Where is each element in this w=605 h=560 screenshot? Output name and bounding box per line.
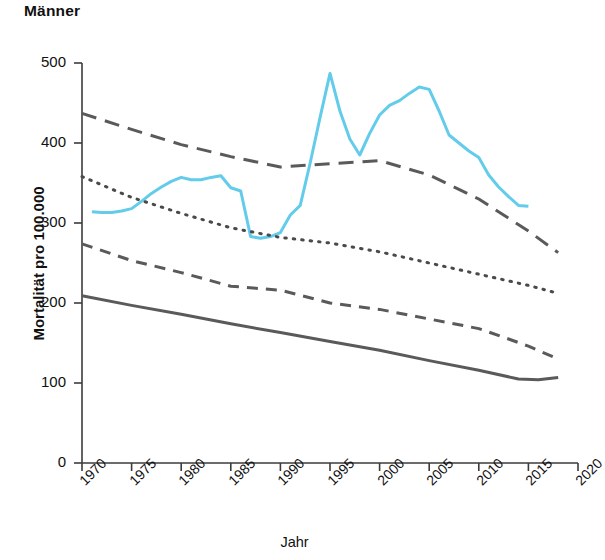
y-tick-label: 100: [14, 373, 66, 390]
series-dotted-middle: [82, 177, 558, 294]
series-solid-bottom: [82, 296, 558, 380]
data-series-layer: [82, 73, 558, 379]
series-medium-dash-lower: [82, 244, 558, 359]
axis-lines: [82, 63, 578, 463]
y-tick-label: 300: [14, 213, 66, 230]
y-tick-label: 500: [14, 53, 66, 70]
y-tick-label: 400: [14, 133, 66, 150]
series-highlight-cyan: [92, 73, 528, 238]
y-tick-label: 200: [14, 293, 66, 310]
series-long-dash-upper: [82, 113, 558, 252]
y-tick-label: 0: [14, 453, 66, 470]
axis-ticks: [74, 63, 578, 471]
